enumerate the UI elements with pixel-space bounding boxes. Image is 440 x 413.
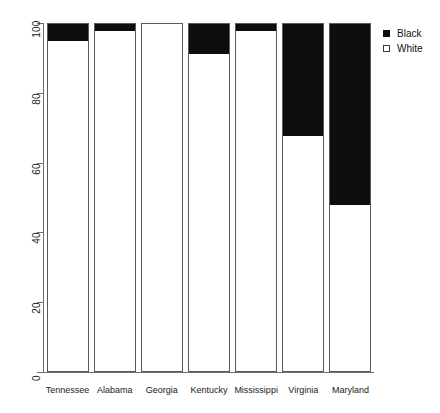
stacked-bar[interactable] <box>329 23 371 372</box>
bar-segment-black[interactable] <box>283 24 323 136</box>
x-axis-tick-label: Virginia <box>280 385 327 396</box>
y-axis-tick-label-text: 80 <box>32 93 42 105</box>
bar-group[interactable] <box>188 23 230 372</box>
plot-area <box>44 23 374 372</box>
x-axis-tick-label: Maryland <box>327 385 374 396</box>
x-axis-line <box>43 372 374 373</box>
x-axis-tick-label: Mississippi <box>233 385 280 396</box>
bar-segment-white[interactable] <box>330 203 370 371</box>
stacked-bar[interactable] <box>282 23 324 372</box>
x-axis-tick-label: Tennessee <box>44 385 91 396</box>
bar-segment-black[interactable] <box>236 24 276 31</box>
stacked-bar[interactable] <box>188 23 230 372</box>
stacked-bar[interactable] <box>47 23 89 372</box>
bar-group[interactable] <box>141 23 183 372</box>
chart-legend: BlackWhite <box>383 26 438 56</box>
bar-segment-white[interactable] <box>48 39 88 371</box>
bar-segment-white[interactable] <box>283 134 323 371</box>
stacked-bar[interactable] <box>235 23 277 372</box>
y-axis-tick-label-text: 60 <box>32 163 42 175</box>
bar-segment-black[interactable] <box>189 24 229 54</box>
legend-item-label: Black <box>397 28 421 39</box>
bar-group[interactable] <box>235 23 277 372</box>
x-axis-tick-label: Kentucky <box>185 385 232 396</box>
legend-swatch-open-icon <box>383 45 390 52</box>
stacked-bar[interactable] <box>141 23 183 372</box>
x-axis-tick-label: Alabama <box>91 385 138 396</box>
bar-segment-black[interactable] <box>330 24 370 205</box>
legend-item[interactable]: Black <box>383 26 438 41</box>
bar-group[interactable] <box>47 23 89 372</box>
bar-segment-white[interactable] <box>236 29 276 371</box>
x-axis-tick-label: Georgia <box>138 385 185 396</box>
bar-segment-white[interactable] <box>95 29 135 371</box>
bar-segment-white[interactable] <box>189 52 229 371</box>
y-axis-tick-label-text: 100 <box>32 20 42 37</box>
bar-group[interactable] <box>329 23 371 372</box>
bar-group[interactable] <box>282 23 324 372</box>
y-axis-tick-label-text: 0 <box>32 375 42 381</box>
legend-item[interactable]: White <box>383 41 438 56</box>
stacked-bar-chart: 020406080100 TennesseeAlabamaGeorgiaKent… <box>0 0 440 413</box>
bar-segment-black[interactable] <box>95 24 135 31</box>
bar-group[interactable] <box>94 23 136 372</box>
y-axis-tick-label-text: 40 <box>32 233 42 245</box>
legend-item-label: White <box>397 43 423 54</box>
stacked-bar[interactable] <box>94 23 136 372</box>
y-axis-tick-label-text: 20 <box>32 302 42 314</box>
bar-segment-white[interactable] <box>142 23 182 371</box>
bar-segment-black[interactable] <box>48 24 88 41</box>
legend-swatch-filled-icon <box>383 30 390 37</box>
